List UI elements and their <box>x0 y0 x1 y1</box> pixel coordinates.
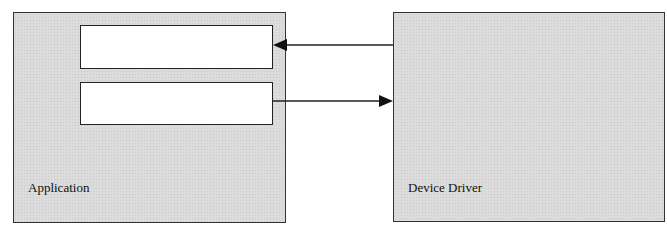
arrow-application-to-driver <box>273 95 393 107</box>
arrow-driver-to-application <box>273 39 393 51</box>
arrows-layer <box>0 0 667 237</box>
